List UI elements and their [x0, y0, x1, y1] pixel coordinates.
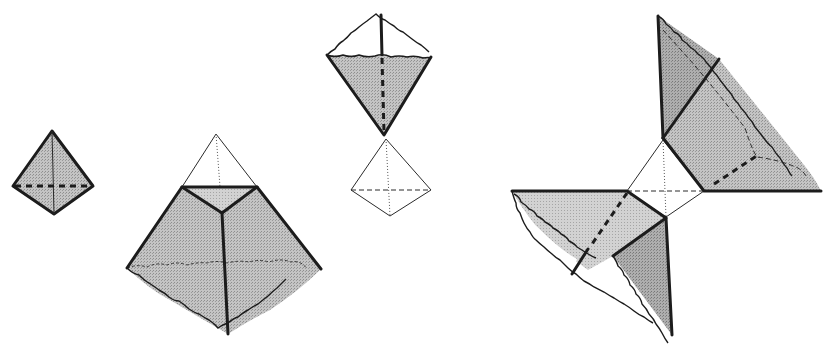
- pinwheel-unfolding: [512, 16, 821, 343]
- center-vertical-edge: [663, 140, 666, 217]
- wireframe-outline: [351, 139, 431, 216]
- apex-edge-right: [216, 134, 257, 187]
- upper-edge: [381, 15, 382, 56]
- inverted-cut-tetrahedron-with-wireframe: [327, 14, 431, 216]
- tetrahedron-diagram: [0, 0, 830, 347]
- wireframe-center-edge: [386, 139, 390, 216]
- truncated-tetrahedron: [127, 134, 321, 334]
- torn-top-edge: [327, 14, 429, 55]
- apex-edge-left: [182, 134, 216, 187]
- inverted-face: [327, 55, 431, 135]
- small-tetrahedron: [13, 131, 93, 214]
